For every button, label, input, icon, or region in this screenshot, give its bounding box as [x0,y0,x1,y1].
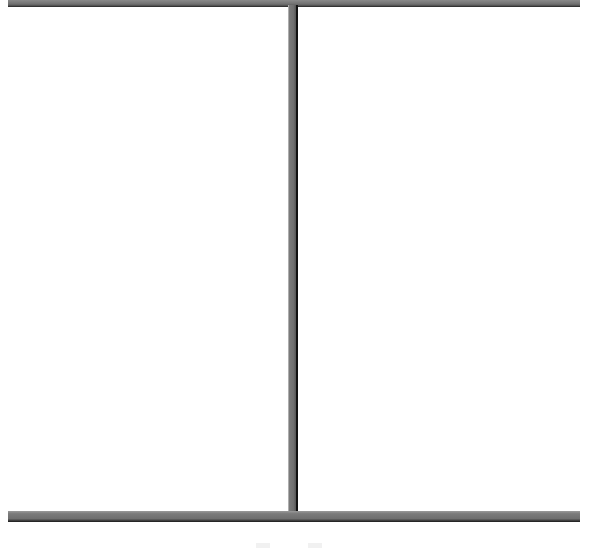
footer-right-mark [308,543,322,548]
footer-left-mark [256,543,270,548]
window-frame [0,0,595,548]
bottom-frame-bar [8,511,580,522]
left-panel[interactable] [8,7,288,511]
vertical-split-divider[interactable] [288,5,298,513]
right-panel[interactable] [298,7,580,511]
